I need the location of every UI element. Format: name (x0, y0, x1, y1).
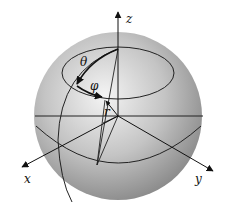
spherical-coordinates-diagram: z x y θ φ r (0, 0, 229, 208)
x-axis-label: x (24, 172, 31, 186)
z-axis-label: z (125, 12, 133, 26)
phi-label: φ (90, 79, 99, 93)
y-axis-label: y (194, 172, 202, 186)
theta-label: θ (80, 55, 88, 69)
diagram-svg: z x y θ φ r (0, 0, 229, 208)
